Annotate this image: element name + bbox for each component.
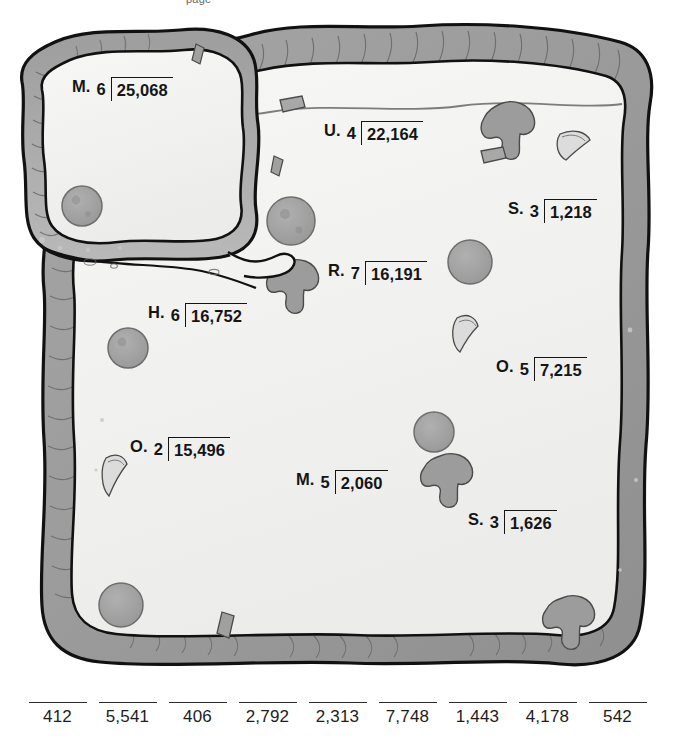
problem-divisor: 7 [351,261,365,283]
problem-h-16752: H. 6 16,752 [148,303,247,327]
answer-value: 2,792 [233,708,303,727]
problem-divisor: 5 [520,357,534,379]
answer-blank-line [239,702,297,703]
problem-dividend: 15,496 [168,437,230,461]
bread-slices-illustration [0,0,675,700]
answer-slot[interactable]: 2,313 [303,702,373,727]
answer-bank: 412 5,541 406 2,792 2,313 7,748 1,443 4 [0,702,675,727]
problem-divisor: 3 [490,510,504,532]
problem-letter: S. [508,199,524,218]
problem-dividend: 7,215 [534,357,587,381]
problem-dividend: 16,752 [185,303,247,327]
answer-blank-line [169,702,227,703]
problem-dividend: 1,218 [544,199,597,223]
answer-value: 2,313 [303,708,373,727]
problem-letter: M. [72,77,91,96]
problem-r-16191: R. 7 16,191 [328,261,427,285]
bread-slice-small [22,29,259,261]
problem-dividend: 22,164 [361,121,423,145]
answer-slot[interactable]: 412 [23,702,93,727]
problem-dividend: 25,068 [111,77,173,101]
answer-slot[interactable]: 4,178 [513,702,583,727]
answer-slot[interactable]: 542 [583,702,653,727]
page-header-fragment: page [186,0,211,5]
problem-letter: O. [130,437,148,456]
problem-m-2060: M. 5 2,060 [296,470,388,494]
problem-divisor: 4 [347,121,361,143]
problem-o-15496: O. 2 15,496 [130,437,230,461]
slice-overlap-edge [44,248,295,288]
problem-letter: H. [148,303,165,322]
answer-blank-line [309,702,367,703]
answer-value: 412 [23,708,93,727]
answer-blank-line [589,702,647,703]
problem-letter: R. [328,261,345,280]
problem-letter: S. [468,510,484,529]
problem-divisor: 6 [171,303,185,325]
problem-divisor: 5 [321,470,335,492]
problem-divisor: 6 [97,77,111,99]
division-worksheet: page [0,0,675,750]
answer-blank-line [29,702,87,703]
problem-dividend: 16,191 [365,261,427,285]
answer-value: 542 [583,708,653,727]
answer-blank-line [519,702,577,703]
answer-slot[interactable]: 5,541 [93,702,163,727]
answer-value: 1,443 [443,708,513,727]
answer-value: 5,541 [93,708,163,727]
problem-letter: O. [496,357,514,376]
problem-divisor: 2 [154,437,168,459]
problem-m-25068: M. 6 25,068 [72,77,173,101]
answer-slot[interactable]: 2,792 [233,702,303,727]
problem-o-7215: O. 5 7,215 [496,357,587,381]
problem-s-1626: S. 3 1,626 [468,510,557,534]
answer-blank-line [449,702,507,703]
answer-value: 406 [163,708,233,727]
problem-dividend: 1,626 [504,510,557,534]
answer-blank-line [379,702,437,703]
answer-value: 7,748 [373,708,443,727]
answer-value: 4,178 [513,708,583,727]
answer-slot[interactable]: 1,443 [443,702,513,727]
problem-divisor: 3 [530,199,544,221]
problem-s-1218: S. 3 1,218 [508,199,597,223]
problem-letter: M. [296,470,315,489]
answer-blank-line [99,702,157,703]
answer-slot[interactable]: 7,748 [373,702,443,727]
answer-slot[interactable]: 406 [163,702,233,727]
problem-dividend: 2,060 [335,470,388,494]
problem-u-22164: U. 4 22,164 [324,121,423,145]
problem-letter: U. [324,121,341,140]
